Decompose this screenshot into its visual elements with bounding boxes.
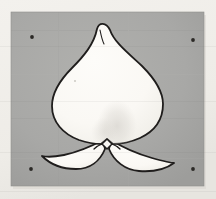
scan-vector-layer [0,0,216,199]
top-right-dot [191,38,195,42]
scanned-image-canvas: A symmetrical spade- or lotus-leaf shape… [0,0,216,199]
bottom-right-dot [191,167,195,171]
ink-fleck [74,80,76,82]
bottom-left-dot [29,167,33,171]
top-left-dot [30,35,34,39]
